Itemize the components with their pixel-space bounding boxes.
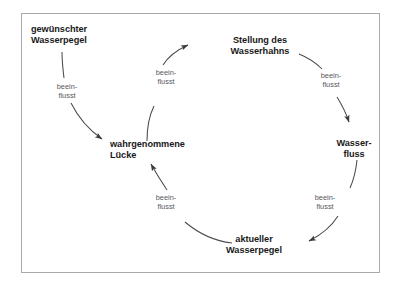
node-line: gewünschter — [31, 24, 87, 35]
edge-label-gewuenschter-to-luecke: beein- flusst — [45, 82, 89, 100]
node-gewuenschter-wasserpegel: gewünschter Wasserpegel — [31, 24, 87, 47]
edge-label-line: beein- — [45, 82, 89, 91]
edge-label-line: flusst — [303, 202, 347, 211]
edge-label-line: beein- — [144, 68, 188, 77]
node-line: fluss — [330, 149, 378, 160]
node-aktueller-wasserpegel: aktueller Wasserpegel — [212, 234, 296, 257]
edge-label-line: beein- — [303, 193, 347, 202]
node-line: Wasser- — [330, 138, 378, 149]
edge-label-aktueller-to-luecke: beein- flusst — [144, 193, 188, 211]
node-line: Wasserpegel — [31, 35, 87, 46]
edge-label-line: flusst — [144, 202, 188, 211]
node-line: Lücke — [110, 150, 185, 161]
node-line: wahrgenommene — [110, 139, 185, 150]
node-line: Wasserpegel — [212, 245, 296, 256]
node-wahrgenommene-luecke: wahrgenommene Lücke — [110, 139, 185, 162]
edge-label-luecke-to-stellung: beein- flusst — [144, 68, 188, 86]
edge-label-line: beein- — [309, 71, 353, 80]
edge-label-line: flusst — [144, 77, 188, 86]
edge-label-line: beein- — [144, 193, 188, 202]
edge-luecke-to-stellung — [147, 45, 188, 141]
node-stellung-des-wasserhahns: Stellung des Wasserhahns — [218, 35, 302, 58]
edge-label-stellung-to-wasserfluss: beein- flusst — [309, 71, 353, 89]
node-line: Stellung des — [218, 35, 302, 46]
node-line: Wasserhahns — [218, 46, 302, 57]
node-line: aktueller — [212, 234, 296, 245]
edge-label-line: flusst — [309, 80, 353, 89]
edge-label-line: flusst — [45, 91, 89, 100]
node-wasserfluss: Wasser- fluss — [330, 138, 378, 161]
edge-label-wasserfluss-to-aktueller: beein- flusst — [303, 193, 347, 211]
